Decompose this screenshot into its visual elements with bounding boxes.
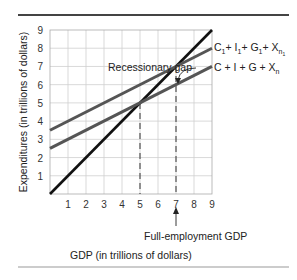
y-tick-label: 7 bbox=[37, 61, 43, 72]
x-tick-label: 3 bbox=[101, 199, 107, 210]
series-line bbox=[50, 66, 212, 148]
y-tick-label: 5 bbox=[37, 98, 43, 109]
y-axis-ticks: 123456789 bbox=[37, 25, 43, 182]
y-axis-title: Expenditures (in trillions of dollars) bbox=[17, 32, 29, 192]
y-tick-label: 1 bbox=[37, 171, 43, 182]
lower-line-label: C + I + G + Xn bbox=[214, 61, 280, 75]
full-employment-label: Full-employment GDP bbox=[144, 230, 247, 242]
x-axis-ticks: 123456789 bbox=[65, 199, 215, 210]
x-tick-label: 6 bbox=[155, 199, 161, 210]
x-tick-label: 2 bbox=[83, 199, 89, 210]
x-tick-label: 1 bbox=[65, 199, 71, 210]
x-tick-label: 8 bbox=[191, 199, 197, 210]
x-tick-label: 5 bbox=[137, 199, 143, 210]
y-tick-label: 8 bbox=[37, 43, 43, 54]
x-tick-label: 9 bbox=[209, 199, 215, 210]
recessionary-gap-label: Recessionary gap bbox=[108, 61, 192, 73]
y-tick-label: 2 bbox=[37, 153, 43, 164]
y-tick-label: 6 bbox=[37, 80, 43, 91]
series-lines bbox=[50, 30, 212, 194]
y-tick-label: 3 bbox=[37, 134, 43, 145]
upper-line-label: C1+ I1+ G1+ Xn1 bbox=[214, 41, 285, 57]
x-tick-label: 4 bbox=[119, 199, 125, 210]
series-line bbox=[50, 30, 212, 194]
y-tick-label: 9 bbox=[37, 25, 43, 36]
chart: 123456789 123456789 Recessionary gap C1+… bbox=[0, 0, 297, 280]
x-axis-title: GDP (in trillions of dollars) bbox=[70, 249, 192, 261]
y-tick-label: 4 bbox=[37, 116, 43, 127]
